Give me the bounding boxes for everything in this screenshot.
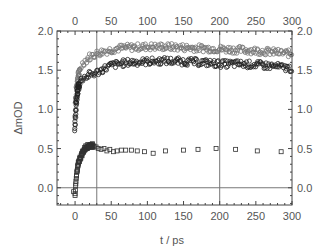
square-marker	[142, 150, 146, 154]
square-marker	[279, 150, 283, 154]
x-tick-label: 150	[174, 210, 192, 222]
x-tick-label-top: 0	[72, 15, 78, 27]
x-tick-label: 300	[283, 210, 301, 222]
square-marker	[182, 148, 186, 152]
circle-marker	[232, 64, 236, 68]
x-tick-label-top: 150	[174, 15, 192, 27]
y-tick-label: 2.0	[38, 25, 53, 37]
x-tick-label: 50	[105, 210, 117, 222]
y-tick-label-right: 1.5	[297, 64, 312, 76]
y-tick-label-right: 0.5	[297, 143, 312, 155]
x-tick-labels-bottom: 050100150200250300	[72, 210, 301, 222]
x-tick-label: 100	[138, 210, 156, 222]
square-marker	[129, 148, 133, 152]
y-tick-labels-right: 0.00.51.01.52.0	[297, 25, 312, 194]
circle-marker	[136, 42, 140, 46]
y-axis-label: ΔmOD	[12, 101, 24, 134]
square-marker	[163, 149, 167, 153]
reference-lines	[57, 31, 292, 205]
x-axis-label: t / ps	[160, 234, 184, 246]
chart-container: 050100150200250300 050100150200250300 0.…	[0, 0, 324, 250]
x-tick-label: 0	[72, 210, 78, 222]
square-marker	[124, 148, 128, 152]
x-tick-labels-top: 050100150200250300	[72, 15, 301, 27]
y-tick-label-right: 2.0	[297, 25, 312, 37]
square-marker	[234, 147, 238, 151]
y-tick-label-right: 1.0	[297, 103, 312, 115]
y-tick-label-right: 0.0	[297, 182, 312, 194]
y-tick-labels-left: 0.00.51.01.52.0	[38, 25, 53, 194]
x-tick-label-top: 200	[211, 15, 229, 27]
square-marker	[135, 149, 139, 153]
data-points	[72, 42, 294, 198]
square-marker	[151, 151, 155, 155]
y-tick-label: 0.5	[38, 143, 53, 155]
x-tick-label-top: 250	[247, 15, 265, 27]
circle-marker	[247, 59, 251, 63]
x-tick-label: 250	[247, 210, 265, 222]
x-tick-label: 200	[211, 210, 229, 222]
x-tick-label-top: 50	[105, 15, 117, 27]
plot-frame	[57, 31, 292, 205]
square-marker	[119, 148, 123, 152]
chart-svg: 050100150200250300 050100150200250300 0.…	[0, 0, 324, 250]
square-marker	[214, 147, 218, 151]
axis-ticks	[57, 31, 292, 205]
y-tick-label: 1.5	[38, 64, 53, 76]
square-marker	[196, 147, 200, 151]
y-tick-label: 1.0	[38, 103, 53, 115]
x-tick-label-top: 100	[138, 15, 156, 27]
square-marker	[255, 149, 259, 153]
y-tick-label: 0.0	[38, 182, 53, 194]
